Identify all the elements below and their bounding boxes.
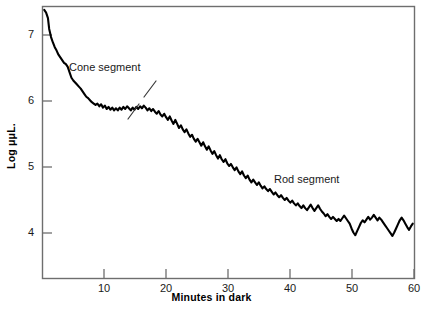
cone-segment-annotation: Cone segment xyxy=(69,61,141,73)
y-tick-label-6: 6 xyxy=(10,94,34,106)
y-axis-title: Log μμL. xyxy=(5,111,17,181)
plot-canvas xyxy=(0,0,423,313)
plot-frame xyxy=(43,7,415,279)
y-tick-label-4: 4 xyxy=(10,226,34,238)
rod-segment-annotation: Rod segment xyxy=(274,173,339,185)
y-tick-label-7: 7 xyxy=(10,28,34,40)
dark-adaptation-chart: 7 6 5 4 10 20 30 40 50 60 Minutes in dar… xyxy=(0,0,423,313)
x-axis-title: Minutes in dark xyxy=(0,291,423,303)
